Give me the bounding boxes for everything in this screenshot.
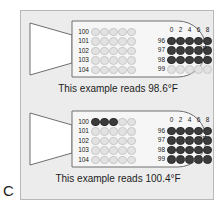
dot-cell bbox=[91, 66, 100, 75]
dot-cell bbox=[127, 127, 136, 136]
dot-row: 99 bbox=[152, 155, 212, 165]
dot-cell bbox=[118, 28, 127, 37]
dot-cell bbox=[176, 37, 185, 46]
dot-row-label: 103 bbox=[76, 57, 89, 64]
dot-cell bbox=[185, 127, 194, 136]
dot-cell bbox=[194, 127, 203, 136]
unit-label: °F bbox=[200, 46, 207, 53]
dot-row-label: 101 bbox=[76, 38, 89, 45]
column-header: 8 bbox=[203, 117, 212, 124]
dot-row-label: 98 bbox=[152, 57, 165, 64]
dot-cell bbox=[100, 156, 109, 165]
dot-cell bbox=[185, 146, 194, 155]
dot-row: 102 bbox=[76, 46, 136, 56]
dot-cell bbox=[91, 37, 100, 46]
dot-cell bbox=[118, 146, 127, 155]
dot-row: 100 bbox=[76, 27, 136, 37]
unit-label: °F bbox=[200, 136, 207, 143]
dot-cell bbox=[127, 137, 136, 146]
dot-cell bbox=[118, 118, 127, 127]
dot-cell bbox=[109, 156, 118, 165]
figure-letter-label: C bbox=[3, 183, 14, 198]
thermometer-strip: 100 101 bbox=[28, 17, 208, 79]
dot-cell bbox=[185, 37, 194, 46]
dot-cell bbox=[118, 47, 127, 56]
dot-cell bbox=[167, 146, 176, 155]
dot-row-label: 104 bbox=[76, 67, 89, 74]
dot-row: 103 bbox=[76, 146, 136, 156]
dot-cell bbox=[100, 37, 109, 46]
dot-row: 101 bbox=[76, 37, 136, 47]
dot-cell bbox=[91, 28, 100, 37]
figure-panel: 100 101 bbox=[20, 10, 214, 200]
dot-cell bbox=[91, 47, 100, 56]
dot-cell bbox=[194, 37, 203, 46]
high-range-dot-grid: 96 97 bbox=[152, 36, 212, 74]
dot-cell bbox=[185, 136, 194, 145]
dot-cell bbox=[185, 65, 194, 74]
dot-cell bbox=[109, 137, 118, 146]
dot-cell bbox=[109, 118, 118, 127]
dot-row-label: 100 bbox=[76, 119, 89, 126]
dot-cell bbox=[118, 37, 127, 46]
dot-cell bbox=[100, 28, 109, 37]
dot-cell bbox=[176, 46, 185, 55]
dot-row-label: 100 bbox=[76, 29, 89, 36]
low-range-dot-grid: 100 101 bbox=[76, 117, 136, 165]
column-header: 0 bbox=[167, 27, 176, 34]
column-header: 2 bbox=[176, 117, 185, 124]
dot-cell bbox=[167, 46, 176, 55]
dot-cell bbox=[91, 146, 100, 155]
dot-cell bbox=[194, 155, 203, 164]
thermometer-example: 100 101 bbox=[21, 17, 215, 105]
column-header: 8 bbox=[203, 27, 212, 34]
dot-cell bbox=[118, 66, 127, 75]
dot-cell bbox=[118, 56, 127, 65]
dot-row: 101 bbox=[76, 127, 136, 137]
high-range-dot-grid: 96 97 bbox=[152, 126, 212, 164]
dot-row: 98 bbox=[152, 145, 212, 155]
dot-cell bbox=[127, 118, 136, 127]
dot-cell bbox=[167, 155, 176, 164]
dot-cell bbox=[91, 156, 100, 165]
dot-row: 102 bbox=[76, 136, 136, 146]
dot-cell bbox=[91, 118, 100, 127]
dot-cell bbox=[203, 127, 212, 136]
dot-cell bbox=[109, 127, 118, 136]
dot-cell bbox=[100, 56, 109, 65]
dot-row: 104 bbox=[76, 155, 136, 165]
dot-row-label: 103 bbox=[76, 147, 89, 154]
dot-row-label: 96 bbox=[152, 128, 165, 135]
dot-cell bbox=[118, 156, 127, 165]
dot-cell bbox=[176, 127, 185, 136]
dot-cell bbox=[176, 136, 185, 145]
dot-row-label: 96 bbox=[152, 38, 165, 45]
dot-row-label: 99 bbox=[152, 66, 165, 73]
dot-cell bbox=[167, 65, 176, 74]
example-caption: This example reads 100.4°F bbox=[21, 173, 215, 184]
dot-cell bbox=[109, 47, 118, 56]
figure-root: C 100 bbox=[0, 0, 221, 212]
dot-cell bbox=[100, 137, 109, 146]
dot-cell bbox=[127, 66, 136, 75]
dot-cell bbox=[100, 127, 109, 136]
dot-cell bbox=[118, 127, 127, 136]
dot-cell bbox=[194, 56, 203, 65]
dot-cell bbox=[127, 37, 136, 46]
column-header: 4 bbox=[185, 27, 194, 34]
dot-row-label: 104 bbox=[76, 157, 89, 164]
dot-row-label: 97 bbox=[152, 47, 165, 54]
dot-cell bbox=[203, 56, 212, 65]
dot-row-label: 102 bbox=[76, 138, 89, 145]
dot-cell bbox=[176, 65, 185, 74]
thermometer-example: 100 101 bbox=[21, 107, 215, 199]
dot-cell bbox=[91, 56, 100, 65]
dot-row: 104 bbox=[76, 65, 136, 75]
column-header-row: 0 2 4 6 8 bbox=[167, 27, 212, 34]
dot-cell bbox=[167, 37, 176, 46]
dot-cell bbox=[100, 47, 109, 56]
thermometer-strip: 100 101 bbox=[28, 107, 208, 169]
dot-row: 103 bbox=[76, 56, 136, 66]
dot-row: 98 bbox=[152, 55, 212, 65]
dot-row-label: 99 bbox=[152, 156, 165, 163]
